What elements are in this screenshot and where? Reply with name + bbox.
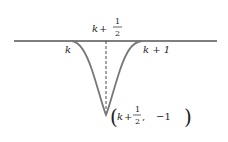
point-plus: + bbox=[124, 111, 132, 122]
top-label-plus: + bbox=[99, 23, 107, 34]
dip-curve bbox=[72, 41, 142, 115]
point-y: −1 bbox=[156, 111, 171, 122]
top-label-var: k bbox=[92, 23, 98, 34]
top-label-frac-num: 1 bbox=[115, 17, 120, 26]
top-label-frac-den: 2 bbox=[115, 29, 120, 38]
point-frac-den: 2 bbox=[135, 117, 140, 126]
point-sep: , bbox=[142, 111, 145, 122]
diagram-svg: k + 1 2 k k + 1 ( k + 1 2 , −1 ) bbox=[0, 0, 228, 142]
top-label: k + 1 2 bbox=[92, 17, 122, 38]
diagram-canvas: k + 1 2 k k + 1 ( k + 1 2 , −1 ) bbox=[0, 0, 228, 142]
point-frac-num: 1 bbox=[135, 105, 140, 114]
point-var: k bbox=[117, 111, 123, 122]
point-close-paren: ) bbox=[184, 105, 192, 129]
min-point-label: ( k + 1 2 , −1 ) bbox=[110, 105, 192, 129]
left-label: k bbox=[65, 44, 71, 55]
right-label: k + 1 bbox=[143, 44, 170, 55]
